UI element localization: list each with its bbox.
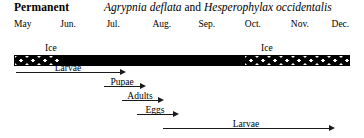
stage-arrow-eggs-3: Eggs bbox=[137, 110, 179, 119]
stage-arrow-larvae-0: Larvae bbox=[16, 68, 126, 77]
species-name-secondary: Hesperophylax occidentalis bbox=[204, 1, 332, 13]
arrow-head-icon bbox=[158, 97, 164, 103]
life-cycle-diagram: Permanent Agrypnia deflata and Hesperoph… bbox=[0, 0, 364, 138]
arrow-head-icon bbox=[140, 83, 146, 89]
month-label-may: May bbox=[14, 19, 31, 29]
stage-arrow-adults-2: Adults bbox=[122, 96, 164, 105]
stage-label: Larvae bbox=[233, 119, 259, 129]
month-label-aug: Aug. bbox=[152, 19, 171, 29]
stage-arrow-pupae-1: Pupae bbox=[104, 82, 146, 91]
stage-label: Eggs bbox=[146, 105, 165, 115]
ice-label: Ice bbox=[261, 43, 273, 53]
arrow-head-icon bbox=[329, 125, 335, 131]
arrow-head-icon bbox=[120, 69, 126, 75]
stage-label: Adults bbox=[127, 91, 152, 101]
month-label-jun: Jun. bbox=[60, 19, 76, 29]
species-caption: Agrypnia deflata and Hesperophylax occid… bbox=[104, 1, 332, 13]
ice-label: Ice bbox=[45, 43, 57, 53]
month-label-jul: Jul. bbox=[106, 19, 119, 29]
bar-segment-open-water bbox=[61, 56, 245, 65]
bar-segment-ice-right bbox=[245, 56, 349, 65]
month-label-nov: Nov. bbox=[291, 19, 309, 29]
month-label-oct: Oct. bbox=[245, 19, 261, 29]
month-axis: MayJun.Jul.Aug.Sep.Oct.Nov.Dec. bbox=[14, 19, 350, 31]
month-label-dec: Dec. bbox=[332, 19, 350, 29]
species-conjunction: and bbox=[182, 1, 204, 13]
stage-arrow-larvae-4: Larvae bbox=[163, 124, 335, 133]
arrow-head-icon bbox=[173, 111, 179, 117]
habitat-title: Permanent bbox=[14, 1, 69, 13]
month-label-sep: Sep. bbox=[198, 19, 215, 29]
species-name-primary: Agrypnia deflata bbox=[104, 1, 182, 13]
stage-label: Pupae bbox=[110, 77, 133, 87]
stage-label: Larvae bbox=[55, 63, 81, 73]
